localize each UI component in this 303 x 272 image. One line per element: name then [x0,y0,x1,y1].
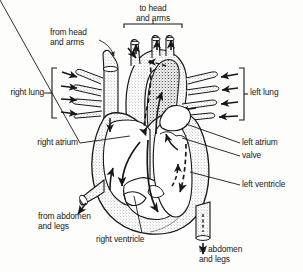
label-to-head-and-arms: to head and arms [118,4,188,23]
label-to-abdomen-and-legs: to abdomen and legs [199,245,279,264]
label-right-ventricle: right ventricle [96,235,172,245]
label-from-head-and-arms: from head and arms [50,28,110,47]
label-left-atrium: left atrium [242,138,302,148]
label-right-lung: right lung [0,88,44,98]
label-left-ventricle: left ventricle [242,180,303,190]
heart-diagram-figure: to head and arms from head and arms righ… [0,0,303,272]
label-left-lung: left lung [250,88,298,98]
right-pulmonary-vessels [61,69,103,118]
left-lung-bracket [239,68,248,120]
label-from-abdomen-and-legs: from abdomen and legs [38,212,114,231]
label-valve: valve [242,151,282,161]
heart-diagram-svg [0,0,303,272]
label-right-atrium: right atrium [0,138,78,148]
